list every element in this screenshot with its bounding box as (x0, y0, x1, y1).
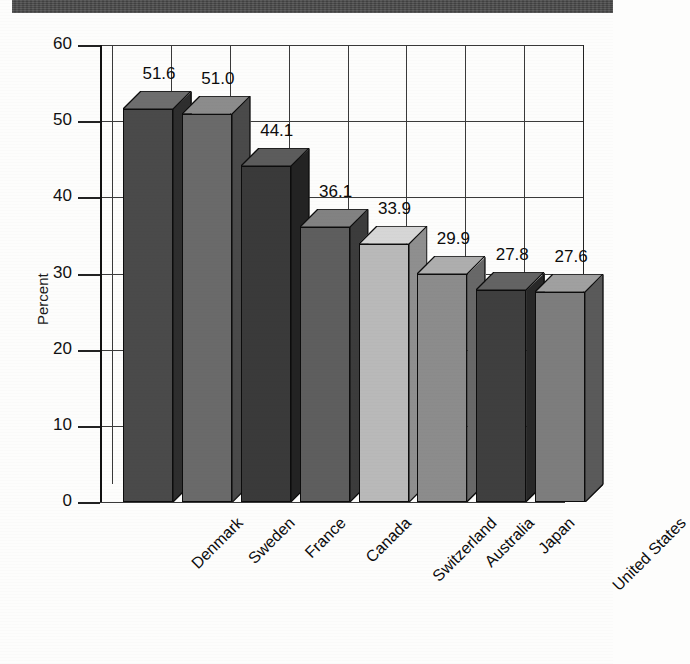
y-tick-mark (78, 502, 100, 504)
bar-canada[interactable] (300, 209, 368, 502)
bar-side-face (585, 274, 604, 502)
bar-front-face (417, 274, 467, 502)
category-label-france: France (301, 514, 349, 562)
bar-front-face (123, 109, 173, 502)
y-tick-mark (78, 121, 100, 123)
bar-front-face (241, 166, 291, 502)
bar-front-face (535, 292, 585, 502)
bar-france[interactable] (241, 148, 309, 502)
bar-australia[interactable] (417, 256, 485, 502)
category-label-canada: Canada (362, 514, 414, 566)
y-tick-mark (78, 197, 100, 199)
bar-united-states[interactable] (535, 274, 603, 502)
y-tick-label: 10 (28, 415, 72, 435)
bar-front-face (300, 227, 350, 502)
category-label-sweden: Sweden (245, 514, 299, 568)
bar-front-face (182, 114, 232, 502)
bar-sweden[interactable] (182, 96, 250, 502)
y-tick-label: 50 (28, 110, 72, 130)
bar-switzerland[interactable] (359, 226, 427, 502)
plot-axis-left (100, 45, 102, 502)
bar-value-label: 51.6 (125, 64, 193, 84)
bar-front-face (359, 244, 409, 502)
bar-value-label: 29.9 (419, 229, 487, 249)
y-tick-mark (78, 426, 100, 428)
bar-front-face (476, 290, 526, 502)
y-tick-label: 40 (28, 186, 72, 206)
plot-axis-bottom (100, 502, 565, 503)
y-tick-label: 20 (28, 339, 72, 359)
y-tick-label: 0 (28, 491, 72, 511)
y-tick-mark (78, 45, 100, 47)
bar-value-label: 51.0 (184, 69, 252, 89)
y-tick-label: 60 (28, 34, 72, 54)
bar-denmark[interactable] (123, 91, 191, 502)
bar-value-label: 33.9 (361, 199, 429, 219)
bar-value-label: 36.1 (302, 182, 370, 202)
category-label-denmark: Denmark (188, 514, 247, 573)
y-tick-mark (78, 274, 100, 276)
category-label-japan: Japan (535, 514, 579, 558)
bar-value-label: 44.1 (243, 121, 311, 141)
bar-value-label: 27.8 (478, 245, 546, 265)
y-tick-mark (78, 350, 100, 352)
category-label-united-states: United States (609, 514, 690, 595)
gridline-horizontal (100, 45, 583, 46)
gridline-vertical (112, 45, 113, 484)
bar-value-label: 27.6 (537, 247, 605, 267)
bar-japan[interactable] (476, 272, 544, 502)
y-tick-label: 30 (28, 263, 72, 283)
